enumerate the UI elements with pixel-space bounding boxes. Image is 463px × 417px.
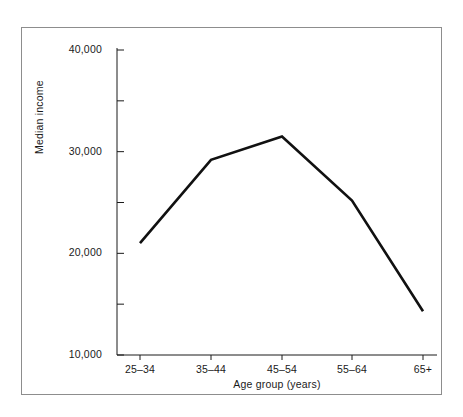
- x-tick-label-1: 35–44: [196, 363, 226, 375]
- x-tick-label-0: 25–34: [125, 363, 155, 375]
- x-tick-label-3: 55–64: [337, 363, 367, 375]
- x-axis-title: Age group (years): [117, 378, 437, 390]
- y-tick-label-40000: 40,000: [69, 43, 102, 55]
- x-tick-label-4: 65+: [414, 363, 432, 375]
- y-tick-label-10000: 10,000: [69, 348, 102, 360]
- y-tick-label-20000: 20,000: [69, 246, 102, 258]
- figure-border: [21, 27, 442, 395]
- y-axis-title: Median income: [33, 140, 45, 154]
- y-tick-label-30000: 30,000: [69, 145, 102, 157]
- x-tick-label-2: 45–54: [267, 363, 297, 375]
- figure: Median income 10,00020,00030,00040,000 2…: [0, 0, 463, 417]
